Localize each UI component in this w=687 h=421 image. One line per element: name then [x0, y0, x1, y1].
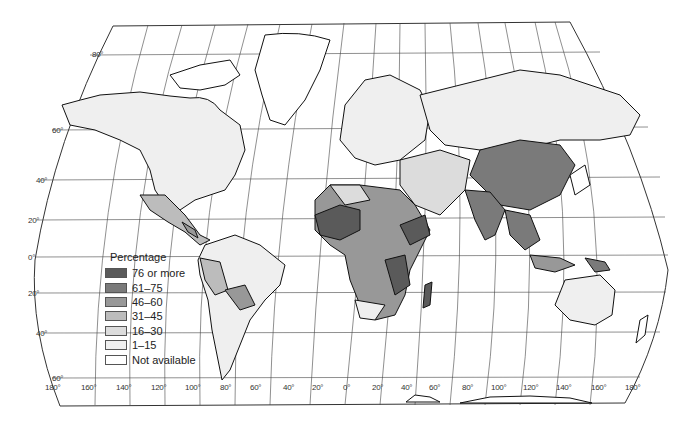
legend-item-1-15: 1–15: [105, 338, 196, 352]
lat-label-20n: 20°: [28, 216, 39, 225]
legend-swatch: [105, 326, 127, 336]
lon-label-80w: 80°: [220, 383, 231, 392]
lon-label-20e: 20°: [372, 383, 383, 392]
lat-label-80n: 80°: [92, 50, 103, 59]
legend-swatch: [105, 340, 127, 350]
lat-label-40s: 40°: [36, 329, 47, 338]
lon-label-100w: 100°: [185, 383, 200, 392]
lon-label-100e: 100°: [491, 383, 506, 392]
legend-swatch: [105, 355, 127, 365]
lon-label-0: 0°: [343, 383, 350, 392]
legend-swatch: [105, 283, 127, 293]
legend-swatch: [105, 297, 127, 307]
legend-swatch: [105, 311, 127, 321]
lon-label-140e: 140°: [556, 383, 571, 392]
lon-label-40w: 40°: [283, 383, 294, 392]
lon-label-180e: 180°: [625, 383, 640, 392]
lat-label-0: 0°: [28, 253, 35, 262]
lon-label-120e: 120°: [523, 383, 538, 392]
country-greenland: [255, 33, 330, 125]
lon-label-60e: 60°: [429, 383, 440, 392]
legend-item-46-60: 46–60: [105, 295, 196, 309]
lat-label-40n: 40°: [36, 176, 47, 185]
lon-label-160e: 160°: [591, 383, 606, 392]
legend-swatch: [105, 268, 127, 278]
country-europe: [340, 75, 430, 165]
lon-label-160w: 160°: [81, 383, 96, 392]
map-legend: Percentage 76 or more 61–75 46–60 31–45 …: [105, 251, 196, 367]
country-africa: [315, 185, 430, 320]
country-australia: [555, 275, 615, 325]
legend-item-76-or-more: 76 or more: [105, 266, 196, 280]
lon-label-180w: 180°: [45, 383, 60, 392]
lon-label-40e: 40°: [401, 383, 412, 392]
legend-item-61-75: 61–75: [105, 280, 196, 294]
lon-label-20w: 20°: [312, 383, 323, 392]
legend-item-31-45: 31–45: [105, 309, 196, 323]
legend-item-not-available: Not available: [105, 352, 196, 366]
legend-item-16-30: 16–30: [105, 324, 196, 338]
legend-title: Percentage: [110, 251, 196, 263]
lat-label-60s: 60°: [52, 374, 63, 383]
country-north-america: [62, 92, 245, 210]
lon-label-80e: 80°: [462, 383, 473, 392]
country-russia: [420, 70, 640, 150]
lon-label-60w: 60°: [250, 383, 261, 392]
lon-label-120w: 120°: [151, 383, 166, 392]
lon-label-140w: 140°: [116, 383, 131, 392]
lat-label-60n: 60°: [52, 126, 63, 135]
lat-label-20s: 20°: [28, 289, 39, 298]
world-map: [0, 0, 687, 421]
